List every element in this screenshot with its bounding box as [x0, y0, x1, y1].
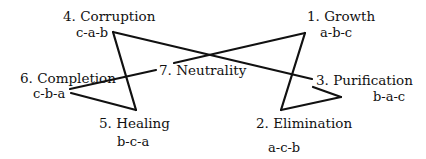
node-completion-sequence: c-b-a — [33, 86, 65, 102]
node-healing-label: 5. Healing — [99, 115, 170, 131]
node-purification-label: 3. Purification — [316, 72, 413, 88]
line-healing-to-completion — [71, 93, 136, 110]
node-neutrality-label: 7. Neutrality — [159, 62, 246, 78]
line-corruption-to-healing — [113, 32, 136, 110]
node-growth-sequence: a-b-c — [320, 25, 352, 41]
node-growth-label: 1. Growth — [307, 8, 375, 24]
line-neutrality-to-growth — [174, 33, 305, 63]
node-corruption-label: 4. Corruption — [63, 8, 155, 24]
node-elimination-label: 2. Elimination — [256, 115, 352, 131]
node-completion-label: 6. Completion — [20, 70, 116, 86]
node-corruption-sequence: c-a-b — [76, 25, 108, 41]
phase-diagram: 4. Corruption c-a-b 1. Growth a-b-c 7. N… — [0, 0, 426, 159]
line-elimination-to-purification — [281, 97, 341, 110]
node-purification-sequence: b-a-c — [373, 89, 405, 105]
node-elimination-sequence: a-c-b — [268, 140, 300, 156]
line-purification-stub — [313, 87, 341, 97]
node-healing-sequence: b-c-a — [117, 134, 149, 150]
